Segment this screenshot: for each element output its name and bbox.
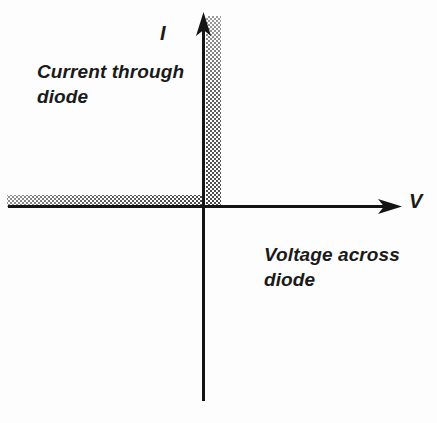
- curve-forward-bias-fade: [206, 16, 221, 207]
- voltage-axis-label: V: [409, 188, 422, 214]
- voltage-across-diode-annotation: Voltage across diode: [264, 243, 400, 292]
- current-through-diode-annotation: Current through diode: [37, 60, 184, 109]
- current-axis-label: I: [160, 20, 166, 46]
- diode-iv-characteristic-figure: I V Current through diode Voltage across…: [0, 0, 437, 423]
- diode-curve: [7, 16, 221, 207]
